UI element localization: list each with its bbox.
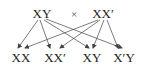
arrow-p1-to-o2 [40, 20, 50, 48]
parent-xx-prime-label: XX′ [92, 7, 114, 20]
parent-xy-label: XY [33, 7, 52, 20]
arrow-p2-to-o4 [107, 20, 118, 48]
arrow-p1-to-o4 [46, 19, 122, 48]
genetic-cross-diagram: XY × XX′ XX XX′ XY X′Y [0, 0, 142, 70]
offspring-xy-label: XY [83, 51, 102, 64]
offspring-xx-label: XX [12, 51, 31, 64]
offspring-x-prime-y-label: X′Y [113, 51, 135, 64]
arrow-p2-to-o1 [25, 20, 98, 48]
cross-operator: × [71, 8, 77, 21]
arrow-p2-to-o3 [93, 20, 104, 48]
offspring-xx-prime-label: XX′ [44, 51, 66, 64]
